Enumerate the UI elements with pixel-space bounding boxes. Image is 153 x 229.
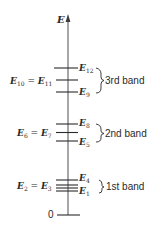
band-1: E4 E2 = E3 E1 1st band bbox=[16, 173, 144, 197]
label-e1: E1 bbox=[78, 186, 90, 197]
axis-label: E bbox=[56, 14, 65, 25]
brace-icon bbox=[99, 180, 104, 193]
label-e6-e7: E6 = E7 bbox=[16, 128, 52, 139]
label-e9: E9 bbox=[78, 87, 90, 98]
brace-icon bbox=[96, 124, 104, 142]
label-e2-e3: E2 = E3 bbox=[16, 181, 52, 192]
band-label-2nd: 2nd band bbox=[105, 128, 147, 139]
label-e12: E12 bbox=[78, 63, 94, 74]
brace-icon bbox=[96, 68, 104, 93]
label-e10-e11: E10 = E11 bbox=[9, 76, 52, 87]
band-3: E12 E10 = E11 E9 3rd band bbox=[9, 63, 144, 98]
band-label-1st: 1st band bbox=[106, 181, 144, 192]
label-e8: E8 bbox=[78, 118, 90, 129]
band-2: E8 E6 = E7 E5 2nd band bbox=[16, 118, 147, 148]
axis-arrow-icon bbox=[66, 14, 71, 22]
band-label-3rd: 3rd band bbox=[105, 75, 144, 86]
zero-label: 0 bbox=[48, 209, 54, 220]
label-e5: E5 bbox=[78, 137, 90, 148]
label-e4: E4 bbox=[78, 173, 90, 184]
energy-band-diagram: E 0 E12 E10 = E11 E9 3rd band E8 E6 = E7 bbox=[0, 0, 153, 229]
